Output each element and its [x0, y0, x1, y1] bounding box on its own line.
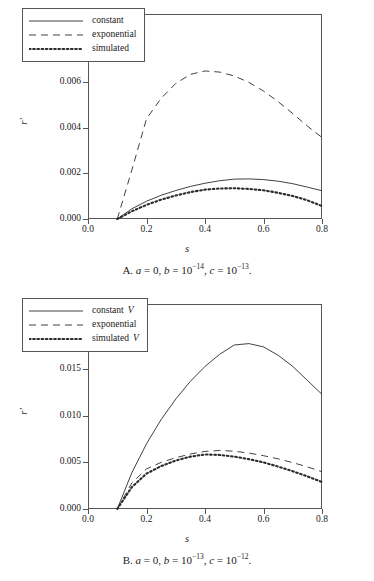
- x-tick-label: 0.4: [199, 225, 211, 235]
- series-line: [117, 450, 322, 509]
- legend-key-solid: [29, 306, 83, 316]
- legend-key-dashed: [29, 30, 83, 40]
- panel-a: r′ s 0.0000.0020.0040.0060.008 0.00.20.4…: [0, 0, 374, 290]
- legend-a: constantexponentialsimulated: [22, 8, 145, 62]
- y-tick-label: 0.005: [60, 458, 81, 468]
- legend-key-solid: [29, 16, 83, 26]
- x-tick-label: 0.2: [141, 515, 153, 525]
- legend-key-dotted: [29, 334, 83, 344]
- y-tick-label: 0.002: [60, 169, 81, 179]
- legend-label: exponential: [92, 320, 136, 330]
- y-tick-label: 0.000: [60, 504, 81, 514]
- x-tick-label: 0.6: [258, 225, 270, 235]
- x-tick-label: 0.6: [258, 515, 270, 525]
- y-axis-title-b: r′: [18, 408, 29, 414]
- y-tick-label: 0.004: [60, 123, 81, 133]
- series-line: [117, 179, 322, 219]
- series-line: [117, 344, 322, 509]
- y-axis-title-a: r′: [18, 118, 29, 124]
- legend-label: constantV: [92, 306, 133, 316]
- x-tick-label: 0.8: [316, 225, 328, 235]
- series-line: [117, 188, 322, 219]
- y-tick-label: 0.015: [60, 364, 81, 374]
- caption-a: A. a = 0, b = 10−14, c = 10−13.: [0, 262, 374, 276]
- panel-b: r′ s 0.0000.0050.0100.0150.020 0.00.20.4…: [0, 290, 374, 581]
- y-tick-label: 0.010: [60, 411, 81, 421]
- x-tick-label: 0.2: [141, 225, 153, 235]
- legend-item: simulatedV: [29, 332, 139, 346]
- legend-item: simulated: [29, 42, 136, 56]
- legend-b: constantVexponentialsimulatedV: [22, 298, 148, 352]
- legend-item: exponential: [29, 28, 136, 42]
- legend-label: simulatedV: [92, 334, 139, 344]
- figure: r′ s 0.0000.0020.0040.0060.008 0.00.20.4…: [0, 0, 374, 581]
- y-tick-label: 0.000: [60, 214, 81, 224]
- legend-label: simulated: [92, 44, 129, 54]
- x-axis-title-b: s: [0, 533, 374, 544]
- y-tick-label: 0.006: [60, 78, 81, 88]
- legend-label: exponential: [92, 30, 136, 40]
- caption-b: B. a = 0, b = 10−13, c = 10−12.: [0, 552, 374, 566]
- x-tick-label: 0.4: [199, 515, 211, 525]
- legend-item: constant: [29, 14, 136, 28]
- legend-item: constantV: [29, 304, 139, 318]
- series-line: [117, 454, 322, 509]
- x-tick-label: 0.0: [82, 515, 94, 525]
- x-tick-label: 0.0: [82, 225, 94, 235]
- x-axis-title-a: s: [0, 243, 374, 254]
- x-tick-label: 0.8: [316, 515, 328, 525]
- legend-key-dotted: [29, 44, 83, 54]
- legend-label: constant: [92, 16, 124, 26]
- legend-key-dashed: [29, 320, 83, 330]
- legend-item: exponential: [29, 318, 139, 332]
- series-line: [117, 71, 322, 219]
